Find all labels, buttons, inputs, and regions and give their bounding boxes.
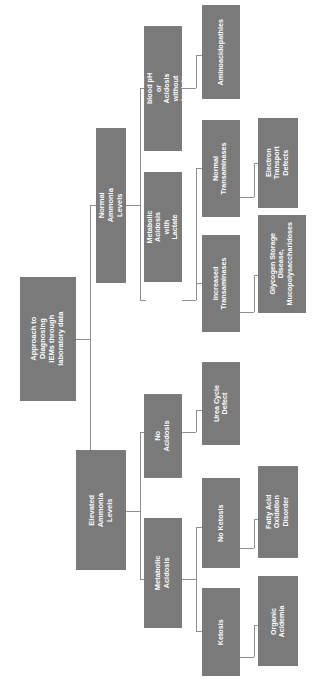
connector-metabolic-lactate-spine — [196, 168, 197, 300]
connector-no-acidosis-out — [182, 432, 196, 433]
node-organic-acidemia-label: Organic Acidemia — [270, 601, 287, 641]
node-normal-ph-label: Normal blood pH or Acidosis without Lact… — [144, 70, 182, 108]
node-no-ketosis-label: No Ketosis — [217, 504, 225, 542]
node-root[interactable]: Approach to Diagnosing IEMs through labo… — [20, 277, 76, 401]
connector-normal-ph-drop — [196, 55, 197, 88]
connector-organic-acidemia-drop — [254, 625, 255, 657]
node-normal-ph-or-acidosis-without-lactate[interactable]: Normal blood pH or Acidosis without Lact… — [144, 26, 182, 151]
node-increased-transaminases[interactable]: Increased Transaminases — [202, 235, 240, 332]
connector-normal-ph-to-aminoacidopathies — [182, 88, 196, 89]
node-urea-cycle-defect[interactable]: Urea Cycle Defect — [202, 362, 240, 445]
connector-normal-ammonia-to-metabolic-lactate — [140, 300, 146, 301]
connector-glycogen-drop — [254, 275, 255, 312]
node-root-label: Approach to Diagnosing IEMs through labo… — [30, 311, 65, 367]
node-ketosis[interactable]: Ketosis — [202, 588, 240, 676]
connector-electron-transport-drop — [254, 163, 255, 197]
node-no-acidosis-label: No Acidosis — [154, 417, 172, 455]
node-fatty-acid-oxidation-disorder-label: Fatty Acid Oxidation Disorder — [265, 492, 290, 532]
connector-metabolic-acidosis-spine — [196, 527, 197, 579]
node-no-acidosis[interactable]: No Acidosis — [144, 394, 182, 478]
node-elevated-ammonia-levels-label: Elevated Ammonia Levels — [88, 485, 115, 535]
node-metabolic-acidosis-with-lactate[interactable]: Metabolic Acidosis with Lactate — [144, 172, 182, 282]
node-metabolic-acidosis-with-lactate-label: Metabolic Acidosis with Lactate — [146, 208, 180, 246]
connector-metabolic-acidosis-stub — [182, 579, 196, 580]
connector-root-stub — [76, 339, 90, 340]
node-electron-transport-defects-label: Electron Transport Defects — [265, 143, 290, 183]
node-organic-acidemia[interactable]: Organic Acidemia — [258, 576, 298, 666]
connector-elevated-ammonia-spine — [140, 432, 141, 511]
connector-metabolic-lactate-stub — [182, 300, 196, 301]
node-increased-transaminases-label: Increased Transaminases — [213, 258, 230, 310]
connector-normal-ammonia-spine-lower — [140, 205, 141, 300]
connector-metabolic-lactate-spine-b — [196, 283, 197, 300]
flowchart-canvas: Approach to Diagnosing IEMs through labo… — [0, 0, 318, 681]
node-glycogen-storage-disease[interactable]: Glycogen Storage Disease, Mucopolysaccha… — [258, 215, 306, 313]
node-aminoacidopathies-label: Aminoacidopathies — [217, 19, 225, 85]
node-electron-transport-defects[interactable]: Electron Transport Defects — [258, 118, 298, 208]
node-glycogen-storage-disease-label: Glycogen Storage Disease, Mucopolysaccha… — [269, 222, 294, 305]
connector-increased-transaminases-out — [240, 312, 254, 313]
connector-no-ketosis-out — [240, 548, 254, 549]
connector-elevated-ammonia-stub — [126, 511, 140, 512]
connector-normal-transaminases-out — [240, 197, 254, 198]
node-fatty-acid-oxidation-disorder[interactable]: Fatty Acid Oxidation Disorder — [258, 466, 298, 558]
connector-urea-cycle-drop — [196, 410, 197, 432]
node-urea-cycle-defect-label: Urea Cycle Defect — [213, 385, 230, 423]
connector-metabolic-acidosis-spine-lower — [196, 579, 197, 631]
connector-fatty-acid-drop — [254, 519, 255, 548]
node-elevated-ammonia-levels[interactable]: Elevated Ammonia Levels — [76, 450, 126, 570]
node-metabolic-acidosis-label: Metabolic Acidosis — [154, 554, 172, 592]
node-ketosis-label: Ketosis — [217, 613, 225, 651]
connector-normal-ammonia-spine — [140, 88, 141, 205]
node-metabolic-acidosis[interactable]: Metabolic Acidosis — [144, 518, 182, 628]
node-normal-transaminases[interactable]: Normal Transaminases — [202, 120, 240, 217]
node-normal-transaminases-label: Normal Transaminases — [213, 143, 230, 195]
node-normal-ammonia-levels[interactable]: Normal Ammonia Levels — [96, 128, 126, 283]
connector-ketosis-out — [240, 657, 254, 658]
connector-normal-ammonia-stub — [126, 205, 140, 206]
node-normal-ammonia-levels-label: Normal Ammonia Levels — [98, 188, 125, 222]
node-no-ketosis[interactable]: No Ketosis — [202, 478, 240, 568]
connector-elevated-ammonia-spine-lower — [140, 511, 141, 579]
node-aminoacidopathies[interactable]: Aminoacidopathies — [202, 5, 240, 99]
